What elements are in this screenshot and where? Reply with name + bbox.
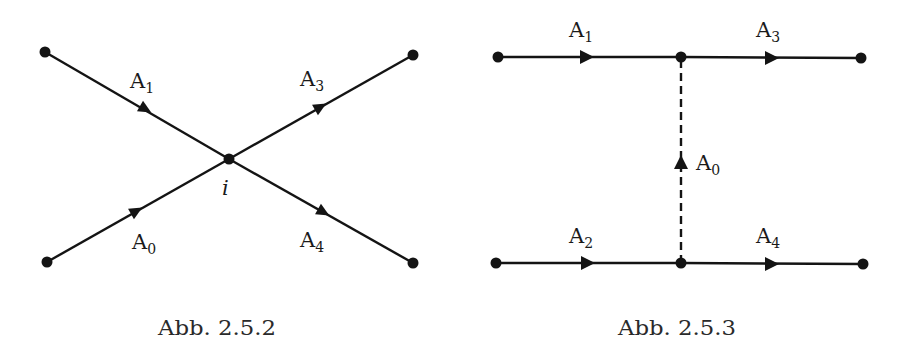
node-bottom-right — [858, 259, 869, 270]
label-vertex-i: i — [222, 176, 229, 200]
caption-abb-2-5-3: Abb. 2.5.3 — [617, 316, 736, 340]
node-bottom-right — [408, 258, 419, 269]
arrow-a3-icon — [765, 51, 779, 65]
arrow-a0-icon — [128, 202, 145, 219]
arrow-a1-icon — [580, 50, 594, 64]
arrow-a3-icon — [312, 98, 329, 115]
label-a3: A3 — [299, 67, 324, 94]
label-a2: A2 — [568, 224, 593, 251]
label-a1: A1 — [568, 18, 593, 45]
node-top-right — [856, 53, 867, 64]
caption-abb-2-5-2: Abb. 2.5.2 — [157, 316, 276, 340]
node-bottom-middle — [676, 258, 687, 269]
arrow-a4-icon — [315, 204, 332, 221]
label-a4: A4 — [299, 228, 324, 255]
figure-abb-2-5-2: A1 A3 A0 A4 i Abb. 2.5.2 — [40, 47, 419, 341]
arrow-a2-icon — [581, 256, 595, 270]
figure-abb-2-5-3: A1 A3 A0 A2 A4 Abb. 2.5.3 — [491, 18, 869, 340]
arrow-a0-up-icon — [674, 155, 688, 169]
node-top-left — [40, 47, 51, 58]
node-top-left — [493, 52, 504, 63]
node-top-right — [408, 50, 419, 61]
label-a0: A0 — [695, 151, 720, 178]
label-a3: A3 — [755, 18, 780, 45]
label-a4: A4 — [755, 224, 780, 251]
label-a1: A1 — [129, 69, 154, 96]
node-center-i — [224, 154, 235, 165]
node-bottom-left — [42, 257, 53, 268]
node-top-middle — [676, 52, 687, 63]
node-bottom-left — [491, 258, 502, 269]
label-a0: A0 — [131, 230, 156, 257]
arrow-a4-icon — [765, 257, 779, 271]
diagram-canvas: A1 A3 A0 A4 i Abb. 2.5.2 A1 A3 A0 A2 — [0, 0, 900, 358]
